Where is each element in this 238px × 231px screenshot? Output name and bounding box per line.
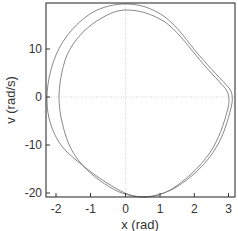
phase-portrait-chart: -2 -1 0 1 2 3 10 0 -10 -20 x (rad) v (ra… — [0, 0, 238, 231]
y-tick-label: 10 — [29, 42, 43, 56]
y-tick-label: 0 — [35, 90, 42, 104]
x-tick-label: -1 — [85, 202, 96, 216]
x-tick-label: -2 — [51, 202, 62, 216]
y-axis-label: v (rad/s) — [3, 76, 18, 124]
x-axis-ticks — [56, 193, 229, 197]
y-tick-label: -10 — [25, 138, 43, 152]
inner-orbit-curve — [59, 10, 229, 197]
x-tick-label: 3 — [225, 202, 232, 216]
x-tick-label: 1 — [157, 202, 164, 216]
x-axis-label: x (rad) — [121, 217, 159, 231]
x-tick-label: 2 — [191, 202, 198, 216]
plot-frame — [46, 3, 235, 197]
x-tick-label: 0 — [122, 202, 129, 216]
y-tick-label: -20 — [25, 186, 43, 200]
outer-orbit-curve — [47, 4, 232, 197]
